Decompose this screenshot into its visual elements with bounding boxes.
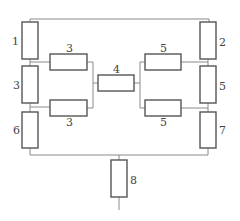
resistors: [22, 22, 216, 197]
wire-left-bus: [87, 62, 93, 108]
resistor-r3-upper: [50, 54, 87, 70]
label-r8: 8: [130, 174, 137, 187]
resistor-r6: [22, 112, 38, 148]
label-r5-right: 5: [219, 80, 226, 93]
label-r5-upper: 5: [160, 42, 167, 55]
resistor-r8: [111, 160, 127, 197]
label-r3-upper: 3: [66, 42, 73, 55]
bottom-rail-wire: [30, 148, 208, 155]
wire-right-bus: [140, 62, 145, 108]
resistor-r3-lower: [50, 100, 87, 116]
circuit-diagram: 1 3 6 3 3 4 5 5 2 5 7 8: [0, 0, 240, 221]
resistor-r5-lower: [145, 100, 181, 116]
resistor-r7: [200, 112, 216, 148]
resistor-r1: [22, 22, 38, 59]
resistor-r3-left: [22, 66, 38, 103]
label-r7: 7: [219, 124, 226, 137]
label-r4: 4: [113, 63, 120, 76]
label-r1: 1: [12, 35, 19, 48]
label-r6: 6: [13, 124, 20, 137]
resistor-r5-upper: [145, 54, 181, 70]
label-r5-lower: 5: [160, 116, 167, 129]
label-r2: 2: [219, 36, 226, 49]
top-rail-wire: [30, 19, 209, 22]
resistor-r5-right: [200, 66, 216, 103]
label-r3-lower: 3: [66, 116, 73, 129]
resistor-r2: [200, 22, 216, 59]
resistor-r4: [98, 75, 134, 91]
label-r3-left: 3: [13, 79, 20, 92]
